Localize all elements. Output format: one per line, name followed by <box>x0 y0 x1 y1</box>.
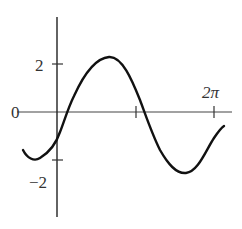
y-label-neg2: −2 <box>29 173 47 192</box>
sine-chart: 2 0 −2 2π <box>0 0 242 229</box>
sine-curve <box>23 57 224 173</box>
y-label-2: 2 <box>35 56 44 75</box>
x-label-2pi: 2π <box>202 83 220 102</box>
y-label-0: 0 <box>11 103 20 122</box>
